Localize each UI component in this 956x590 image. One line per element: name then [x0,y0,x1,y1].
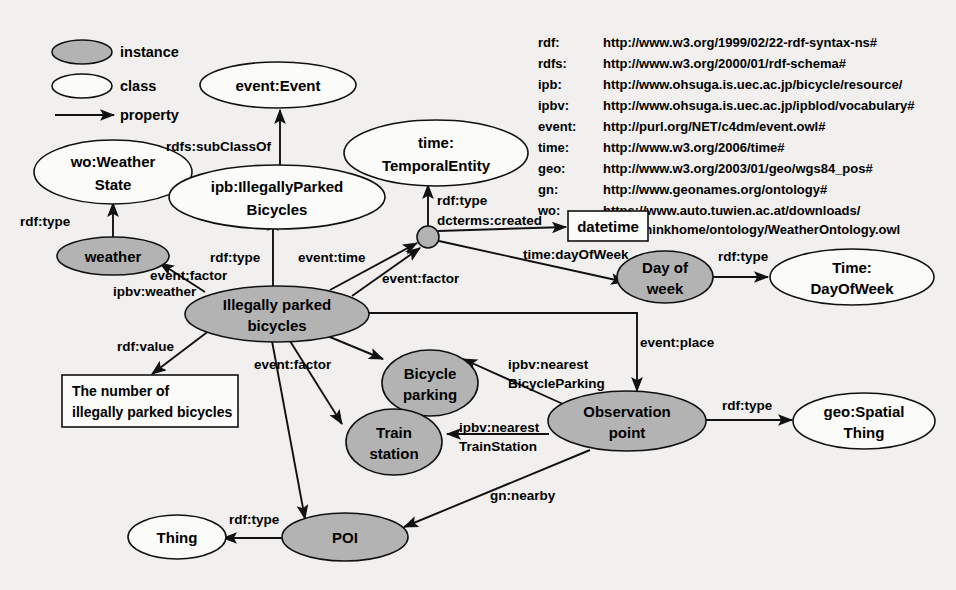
ns-uri-time: http://www.w3.org/2006/time# [603,140,785,155]
node-time-temporal-entity-label-1: time: [418,134,454,151]
ns-prefix-gn: gn: [538,182,558,197]
ns-prefix-geo: geo: [538,161,565,176]
ns-prefix-rdf: rdf: [538,35,560,50]
legend-class-label: class [120,78,156,94]
node-time-temporal-entity-label-2: TemporalEntity [382,157,491,174]
legend-instance-icon [52,40,112,64]
node-bicycle-parking-label-1: Bicycle [404,365,457,382]
ns-prefix-rdfs: rdfs: [538,56,567,71]
node-ipb-illegally-parked-bicycles[interactable]: ipb:IllegallyParked Bicycles [169,165,385,229]
node-ipb-illegally-parked-bicycles-label-1: ipb:IllegallyParked [211,178,344,195]
node-geo-spatial-thing-label-1: geo:Spatial [824,403,905,420]
node-illegally-parked-bicycles-label-1: Illegally parked [223,296,331,313]
node-wo-weather-state-label-1: wo:Weather [70,153,156,170]
node-geo-spatial-thing-label-2: Thing [844,424,885,441]
ns-prefix-ipb: ipb: [538,77,562,92]
node-day-of-week-label-1: Day of [642,259,689,276]
edge-label-time-dayofweek: time:dayOfWeek [523,247,629,262]
node-observation-point[interactable]: Observation point [548,391,706,451]
node-poi-label: POI [332,529,358,546]
node-observation-point-shape[interactable] [548,391,706,451]
node-train-station-shape[interactable] [346,409,442,475]
edge-label-dayofweek-rdftype: rdf:type [718,249,769,264]
ns-prefix-event: event: [538,119,576,134]
edge-label-ipbv-nearest-trainstation-2: TrainStation [459,439,537,454]
edge-label-rdf-value: rdf:value [117,339,175,354]
node-train-station[interactable]: Train station [346,409,442,475]
ns-uri-gn: http://www.geonames.org/ontology# [603,182,828,197]
node-observation-point-label-2: point [609,424,646,441]
node-time-temporal-entity[interactable]: time: TemporalEntity [344,120,528,186]
edge-label-event-place: event:place [640,335,715,350]
rdf-graph-svg: instance class property rdf: http://www.… [0,0,956,590]
node-event-event-label: event:Event [235,77,320,94]
node-number-of-bicycles[interactable]: The number of illegally parked bicycles [62,375,238,427]
node-thing-label: Thing [157,529,198,546]
node-ipb-illegally-parked-bicycles-label-2: Bicycles [247,201,308,218]
edge-label-ipb-rdftype: rdf:type [210,250,261,265]
edge-label-event-time: event:time [298,250,366,265]
node-train-station-label-2: station [369,445,418,462]
edge-label-event-factor-weather-1: event:factor [150,268,228,283]
ns-prefix-ipbv: ipbv: [538,98,569,113]
node-poi[interactable]: POI [282,513,408,561]
node-day-of-week[interactable]: Day of week [617,251,713,303]
node-wo-weather-state-label-2: State [95,176,132,193]
ns-uri-wo-cont: thinkhome/ontology/WeatherOntology.owl [640,222,900,237]
node-time-dayofweek-label-2: DayOfWeek [810,280,894,297]
ns-prefix-time: time: [538,140,569,155]
ns-uri-ipbv: http://www.ohsuga.is.uec.ac.jp/ipblod/vo… [603,98,915,113]
edge-label-weather-rdftype: rdf:type [20,214,71,229]
ns-uri-rdfs: http://www.w3.org/2000/01/rdf-schema# [603,56,847,71]
ns-uri-rdf: http://www.w3.org/1999/02/22-rdf-syntax-… [603,35,878,50]
node-time-temporal-entity-shape[interactable] [344,120,528,186]
node-bicycle-parking-label-2: parking [403,386,457,403]
node-day-of-week-label-2: week [646,280,684,297]
legend-class-icon [52,74,112,98]
edge-label-rdfs-subclassof: rdfs:subClassOf [166,139,272,154]
edge-label-poi-rdftype: rdf:type [229,512,280,527]
node-number-of-bicycles-label-2: illegally parked bicycles [72,404,233,420]
ns-uri-ipb: http://www.ohsuga.is.uec.ac.jp/bicycle/r… [603,77,903,92]
edge-label-observation-rdftype: rdf:type [722,398,773,413]
edge-label-gn-nearby: gn:nearby [490,488,556,503]
node-event-event[interactable]: event:Event [200,62,356,108]
edge-label-event-factor-weather-2: ipbv:weather [113,284,197,299]
node-time-dayofweek-label-1: Time: [832,259,872,276]
edge-label-ipbv-nearest-bicycleparking-2: BicycleParking [508,376,605,391]
node-illegally-parked-bicycles-label-2: bicycles [247,317,306,334]
edge-label-ipbv-nearest-trainstation-1: ipbv:nearest [459,420,540,435]
diagram-canvas: instance class property rdf: http://www.… [0,0,956,590]
node-geo-spatial-thing[interactable]: geo:Spatial Thing [793,393,935,449]
node-blank-node-shape[interactable] [417,226,439,248]
node-ipb-illegally-parked-bicycles-shape[interactable] [169,165,385,229]
node-bicycle-parking[interactable]: Bicycle parking [382,350,478,416]
edge-label-dcterms-created: dcterms:created [437,213,542,228]
node-number-of-bicycles-label-1: The number of [72,383,170,399]
edge-label-temporal-rdftype: rdf:type [437,193,488,208]
node-blank-node[interactable] [417,226,439,248]
node-train-station-label-1: Train [376,424,412,441]
edge-label-event-factor-bicycleparking: event:factor [254,357,332,372]
node-bicycle-parking-shape[interactable] [382,350,478,416]
node-datetime[interactable]: datetime [568,211,648,241]
node-weather-label: weather [84,248,142,265]
node-observation-point-label-1: Observation [583,403,671,420]
ns-uri-geo: http://www.w3.org/2003/01/geo/wgs84_pos# [603,161,873,176]
node-time-dayofweek[interactable]: Time: DayOfWeek [770,249,934,305]
edge-label-ipbv-nearest-bicycleparking-1: ipbv:nearest [508,357,589,372]
legend-property-label: property [120,107,179,123]
edge-label-event-factor-blank: event:factor [382,271,460,286]
ns-uri-event: http://purl.org/NET/c4dm/event.owl# [603,119,826,134]
legend-instance-label: instance [120,44,179,60]
node-illegally-parked-bicycles[interactable]: Illegally parked bicycles [185,286,369,342]
node-datetime-label: datetime [577,218,639,235]
node-thing[interactable]: Thing [128,515,226,559]
